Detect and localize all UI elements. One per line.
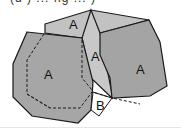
- label-right-a: A: [136, 62, 145, 77]
- label-gap-b: B: [96, 98, 105, 113]
- label-top-a: A: [69, 17, 78, 32]
- label-left-a: A: [44, 67, 53, 82]
- label-middle-a: A: [91, 49, 100, 64]
- left-block: [13, 32, 93, 123]
- polyhedra-diagram: A A A A B: [0, 0, 181, 130]
- divider: [0, 127, 181, 128]
- diagram-canvas: (d ) ... fig ... ) A A A A B: [0, 0, 181, 130]
